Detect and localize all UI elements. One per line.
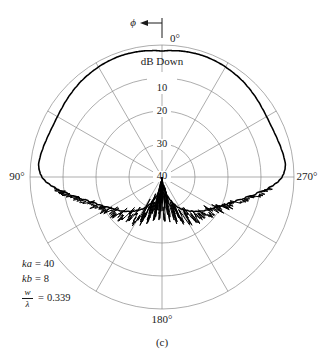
db-down-axis-title: dB Down (141, 55, 184, 67)
polar-radiation-pattern-figure: ϕ 0° 90° 180° 270° dB Down 10 20 30 40 (… (0, 0, 324, 357)
pattern-sidelobe-ripple-trace (54, 177, 272, 226)
radial-tick-30: 30 (157, 138, 168, 149)
parameter-kb: kb = 8 (22, 271, 71, 286)
phi-symbol-label: ϕ (130, 16, 136, 28)
w-lambda-fraction: w λ (22, 288, 33, 309)
parameter-kb-value: 8 (44, 271, 49, 286)
parameter-ka-equals: = (35, 256, 41, 271)
angle-label-180: 180° (152, 313, 173, 325)
w-lambda-numerator: w (22, 288, 32, 298)
parameter-ka-value: 40 (44, 256, 55, 271)
phi-arrow-indicator: ϕ (130, 16, 162, 38)
phi-arrow-head (140, 20, 148, 26)
angle-label-270: 270° (297, 170, 318, 182)
parameter-kb-symbol: kb (22, 271, 32, 286)
radial-tick-20: 20 (157, 105, 168, 116)
parameter-w-lambda-value: 0.339 (47, 290, 71, 305)
figure-caption: (c) (156, 336, 169, 349)
radial-label-bg-0 (147, 72, 177, 83)
parameter-w-lambda-equals: = (38, 290, 44, 305)
parameter-ka: ka = 40 (22, 256, 71, 271)
parameter-ka-symbol: ka (22, 256, 32, 271)
angle-label-90: 90° (9, 170, 24, 182)
parameter-annotations: ka = 40 kb = 8 w λ = 0.339 (22, 256, 71, 309)
parameter-w-over-lambda: w λ = 0.339 (22, 287, 71, 309)
angle-label-0: 0° (170, 32, 180, 44)
w-lambda-denominator: λ (24, 299, 32, 309)
radial-tick-10: 10 (157, 82, 168, 93)
parameter-kb-equals: = (35, 271, 41, 286)
